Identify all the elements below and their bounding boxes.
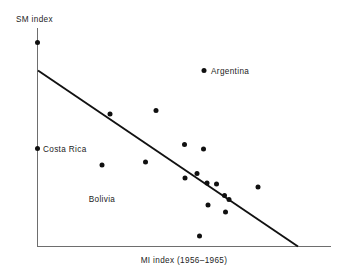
data-point	[143, 160, 148, 165]
data-point-bolivia	[100, 163, 105, 168]
data-point-argentina	[202, 68, 207, 73]
data-point	[227, 197, 232, 202]
x-axis-title: MI index (1956–1965)	[141, 256, 228, 265]
plot-canvas: SM index MI index (1956–1965) Argentina …	[0, 0, 339, 273]
label-bolivia: Bolivia	[89, 195, 116, 204]
data-point	[195, 171, 200, 176]
scatter-plot-figure: SM index MI index (1956–1965) Argentina …	[0, 0, 339, 273]
label-argentina: Argentina	[211, 67, 249, 76]
trend-line-group	[38, 71, 298, 247]
data-point	[154, 108, 159, 113]
data-point	[183, 176, 188, 181]
label-costa-rica: Costa Rica	[43, 145, 87, 154]
data-point	[223, 210, 228, 215]
data-point	[201, 147, 206, 152]
text-group: SM index MI index (1956–1965) Argentina …	[16, 15, 249, 265]
regression-line	[38, 71, 298, 247]
data-point	[197, 234, 202, 239]
axes-group	[37, 28, 331, 247]
data-point	[222, 193, 227, 198]
data-point	[35, 40, 40, 45]
data-point	[182, 142, 187, 147]
data-point	[205, 181, 210, 186]
data-point	[108, 112, 113, 117]
data-point	[206, 203, 211, 208]
y-axis-title: SM index	[16, 15, 53, 24]
data-point	[256, 185, 261, 190]
data-point	[214, 182, 219, 187]
data-point-costa-rica	[35, 146, 40, 151]
